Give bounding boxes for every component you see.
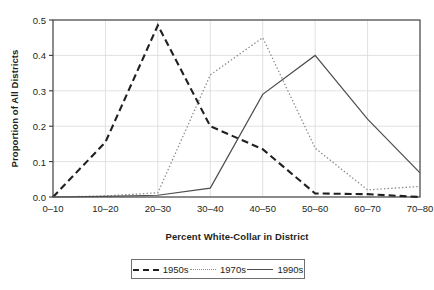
x-tick-label: 70–80 xyxy=(407,203,433,214)
x-tick-label: 30–40 xyxy=(197,203,223,214)
legend-label: 1950s xyxy=(163,264,189,275)
legend-item-1950s[interactable]: 1950s xyxy=(133,264,189,275)
series-line-1950s xyxy=(53,25,420,197)
x-tick-label: 60–70 xyxy=(354,203,380,214)
plot-area xyxy=(0,0,434,290)
legend-swatch-dashed-icon xyxy=(133,266,159,273)
legend-swatch-dotted-icon xyxy=(190,266,216,273)
series-line-1970s xyxy=(53,38,420,197)
x-tick-label: 20–30 xyxy=(145,203,171,214)
chart-figure: Proportion of All Districts 0.00.10.20.3… xyxy=(0,0,434,290)
x-axis-title: Percent White-Collar in District xyxy=(53,231,421,242)
legend-label: 1970s xyxy=(220,264,246,275)
legend-item-1990s[interactable]: 1990s xyxy=(247,264,303,275)
x-tick-label: 10–20 xyxy=(92,203,118,214)
legend-label: 1990s xyxy=(277,264,303,275)
legend-item-1970s[interactable]: 1970s xyxy=(190,264,246,275)
legend-swatch-solid-icon xyxy=(247,266,273,273)
x-tick-label: 40–50 xyxy=(249,203,275,214)
chart-legend: 1950s1970s1990s xyxy=(131,259,305,279)
x-tick-label: 0–10 xyxy=(42,203,63,214)
x-tick-label: 50–60 xyxy=(302,203,328,214)
plot-frame xyxy=(53,20,420,197)
